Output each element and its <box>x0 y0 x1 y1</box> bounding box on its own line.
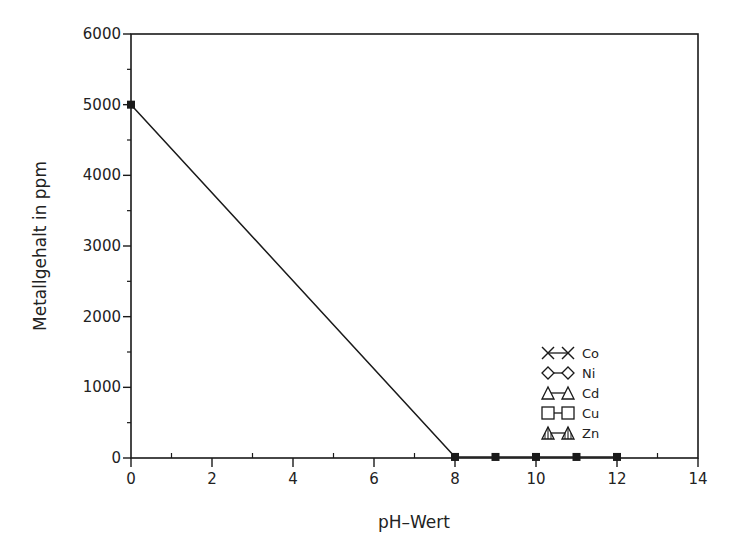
legend-label: Cd <box>582 386 599 401</box>
y-axis: 0100020003000400050006000 <box>83 25 131 467</box>
y-tick-label: 5000 <box>83 96 121 114</box>
plot-border <box>131 34 698 458</box>
legend-item-cd: Cd <box>542 386 599 401</box>
data-point-marker <box>613 453 621 461</box>
x-tick-label: 0 <box>126 470 136 488</box>
y-tick-label: 2000 <box>83 308 121 326</box>
legend-item-zn: Zn <box>542 426 599 441</box>
x-tick-label: 6 <box>369 470 379 488</box>
legend-label: Co <box>582 346 599 361</box>
y-tick-label: 0 <box>111 449 121 467</box>
x-tick-label: 8 <box>450 470 460 488</box>
data-point-marker <box>451 453 459 461</box>
square-marker-icon <box>562 407 574 419</box>
legend-label: Cu <box>582 406 599 421</box>
legend-item-ni: Ni <box>542 366 595 381</box>
x-tick-label: 4 <box>288 470 298 488</box>
legend-item-cu: Cu <box>542 406 599 421</box>
legend-label: Ni <box>582 366 595 381</box>
diamond-marker-icon <box>542 367 554 379</box>
legend-item-co: Co <box>542 346 599 361</box>
y-tick-label: 1000 <box>83 378 121 396</box>
data-line <box>131 105 617 457</box>
data-point-marker <box>532 453 540 461</box>
x-tick-label: 2 <box>207 470 217 488</box>
y-axis-title: Metallgehalt in ppm <box>30 161 50 331</box>
y-tick-label: 6000 <box>83 25 121 43</box>
x-tick-label: 14 <box>688 470 707 488</box>
legend-label: Zn <box>582 426 599 441</box>
data-point-marker <box>573 453 581 461</box>
x-axis-title: pH–Wert <box>378 512 450 532</box>
data-point-marker <box>492 453 500 461</box>
legend: CoNiCdCuZn <box>542 346 599 441</box>
x-tick-label: 10 <box>526 470 545 488</box>
y-tick-label: 4000 <box>83 166 121 184</box>
line-chart: 0100020003000400050006000 02468101214 Co… <box>0 0 742 552</box>
data-point-marker <box>127 101 135 109</box>
x-tick-label: 12 <box>607 470 626 488</box>
y-tick-label: 3000 <box>83 237 121 255</box>
square-marker-icon <box>542 407 554 419</box>
diamond-marker-icon <box>562 367 574 379</box>
plot-frame <box>131 34 698 458</box>
